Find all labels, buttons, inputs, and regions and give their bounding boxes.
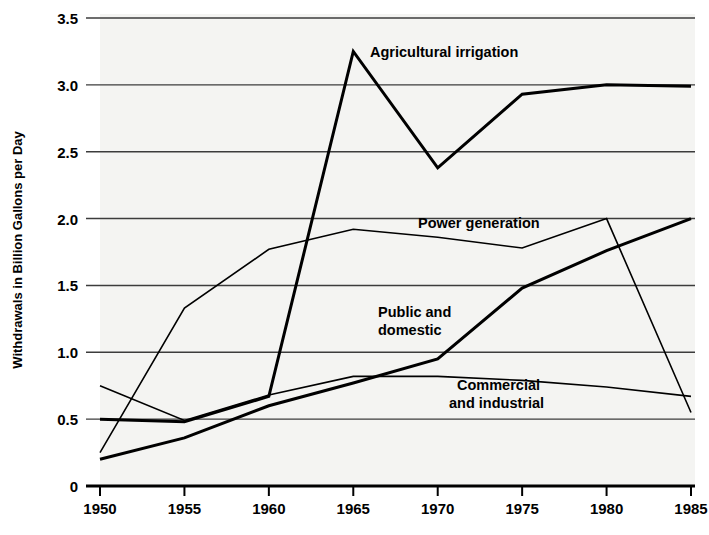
y-tick-label: 0.5 xyxy=(57,411,78,428)
y-tick-label: 2.5 xyxy=(57,144,78,161)
y-axis-tick-labels: 00.51.01.52.02.53.03.5 xyxy=(57,10,78,495)
x-tick-label: 1970 xyxy=(421,500,454,517)
y-tick-label: 2.0 xyxy=(57,211,78,228)
y-tick-label: 1.0 xyxy=(57,344,78,361)
series-annotation: Power generation xyxy=(418,215,540,231)
x-tick-label: 1950 xyxy=(83,500,116,517)
chart-container: 00.51.01.52.02.53.03.5 19501955196019651… xyxy=(0,0,709,535)
series-annotation: Commercial xyxy=(457,377,540,393)
series-annotation: Public and xyxy=(378,304,451,320)
series-annotation: and industrial xyxy=(449,395,544,411)
series-annotation: Agricultural irrigation xyxy=(370,44,518,60)
line-chart: 00.51.01.52.02.53.03.5 19501955196019651… xyxy=(0,0,709,535)
y-tick-label: 0 xyxy=(70,478,78,495)
x-tick-label: 1960 xyxy=(252,500,285,517)
x-tick-label: 1965 xyxy=(337,500,370,517)
x-tick-label: 1955 xyxy=(168,500,201,517)
x-axis-tick-labels: 19501955196019651970197519801985 xyxy=(83,500,707,517)
x-tick-label: 1980 xyxy=(590,500,623,517)
x-tick-label: 1975 xyxy=(505,500,538,517)
x-tick-label: 1985 xyxy=(674,500,707,517)
y-tick-label: 3.5 xyxy=(57,10,78,27)
y-tick-label: 1.5 xyxy=(57,277,78,294)
y-tick-label: 3.0 xyxy=(57,77,78,94)
x-axis xyxy=(86,486,695,496)
series-annotation: domestic xyxy=(378,322,442,338)
y-axis-title: Withdrawals in Billion Gallons per Day xyxy=(10,130,25,368)
